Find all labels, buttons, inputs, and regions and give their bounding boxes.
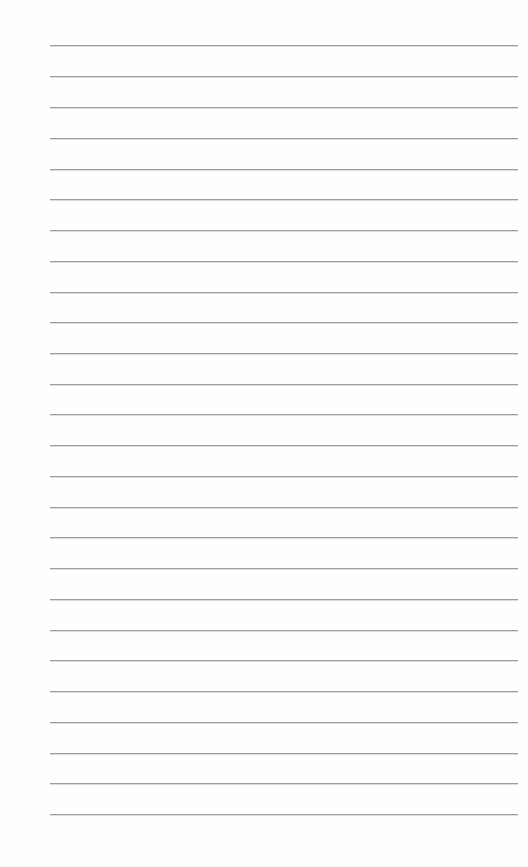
ruled-line [50,537,518,538]
ruled-line [50,722,518,723]
ruled-line [50,691,518,692]
ruled-line [50,507,518,508]
lined-paper-page [0,0,528,867]
ruled-line [50,45,518,46]
ruled-line [50,783,518,784]
ruled-line [50,107,518,108]
ruled-line [50,292,518,293]
ruled-line [50,568,518,569]
ruled-line [50,630,518,631]
ruled-line [50,169,518,170]
ruled-line [50,76,518,77]
ruled-line [50,384,518,385]
ruled-line [50,138,518,139]
ruled-line [50,814,518,815]
ruled-line [50,353,518,354]
ruled-line [50,199,518,200]
ruled-line [50,660,518,661]
ruled-line [50,753,518,754]
ruled-line [50,414,518,415]
ruled-line [50,261,518,262]
ruled-line [50,599,518,600]
ruled-line [50,230,518,231]
ruled-line [50,445,518,446]
ruled-line [50,476,518,477]
ruled-line [50,322,518,323]
